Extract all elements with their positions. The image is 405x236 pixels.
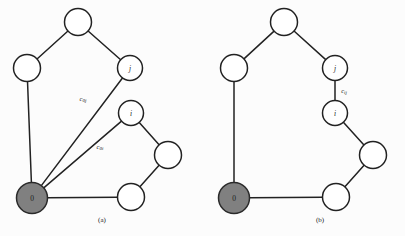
graph-edge-b-left-to-b-top [244, 31, 274, 59]
customer-node-circle [65, 9, 92, 36]
figure-root: ji0c0jc0i(a)ji0cij(b) [0, 0, 405, 236]
customer-node-circle [14, 55, 41, 82]
graph-edge-a-i-to-a-right [139, 122, 159, 144]
graph-node-b-right [360, 142, 387, 169]
graph-edge-a-left-to-a-top [37, 31, 68, 59]
graph-node-a-bottom [118, 184, 145, 211]
node-label-b-j: j [333, 64, 336, 73]
node-label-b-i: i [334, 109, 336, 118]
cost-label-a-cost-0j: c0j [80, 95, 87, 103]
cost-label-a-cost-0i: c0i [97, 143, 104, 151]
cost-label-b-cost-ij: cij [341, 87, 347, 95]
graph-edge-a-right-to-a-bottom [140, 165, 159, 187]
graph-edge-b-right-to-b-bottom [345, 165, 364, 187]
node-label-a-j: j [128, 64, 131, 73]
graph-edge-a-top-to-a-j [88, 31, 121, 60]
graph-node-a-top [65, 9, 92, 36]
node-label-a-depot: 0 [30, 194, 34, 203]
graph-node-b-depot: 0 [219, 183, 250, 214]
graph-edge-a-left-to-a-depot [28, 81, 32, 182]
panel-caption-panel-a: (a) [98, 216, 106, 224]
graph-edge-b-depot-to-b-bottom [250, 197, 323, 198]
graph-node-a-depot: 0 [17, 183, 48, 214]
graph-node-a-j: j [118, 56, 143, 81]
panel-caption-panel-b: (b) [316, 216, 325, 224]
customer-node-circle [155, 142, 182, 169]
graph-node-b-i: i [323, 101, 348, 126]
graph-node-b-j: j [323, 56, 348, 81]
customer-node-circle [118, 184, 145, 211]
graph-node-b-left [221, 55, 248, 82]
node-label-a-i: i [130, 109, 132, 118]
graph-edge-b-i-to-b-right [343, 122, 364, 145]
panel-a: ji0c0jc0i(a) [14, 9, 182, 225]
graph-diagram-canvas: ji0c0jc0i(a)ji0cij(b) [0, 0, 405, 236]
graph-node-b-top [271, 9, 298, 36]
graph-node-a-right [155, 142, 182, 169]
graph-node-b-bottom [323, 184, 350, 211]
graph-edge-b-top-to-b-j [294, 31, 326, 60]
node-label-b-depot: 0 [232, 194, 236, 203]
graph-node-a-left [14, 55, 41, 82]
graph-node-a-i: i [119, 101, 144, 126]
customer-node-circle [360, 142, 387, 169]
customer-node-circle [271, 9, 298, 36]
customer-node-circle [221, 55, 248, 82]
panel-b: ji0cij(b) [219, 9, 387, 225]
customer-node-circle [323, 184, 350, 211]
graph-edge-a-depot-to-a-bottom [48, 197, 118, 198]
